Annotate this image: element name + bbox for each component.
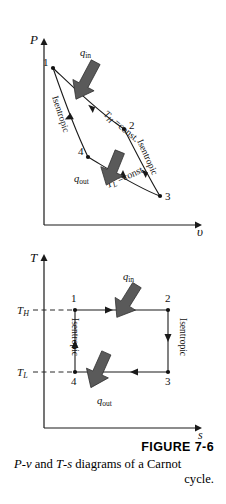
ts-q-in-subscript: in — [128, 275, 134, 284]
ts-TL-tick-label: TL — [17, 366, 28, 380]
ts-state-dots — [73, 308, 170, 374]
ts-y-axis-label: T — [30, 250, 38, 265]
ts-cycle-path — [75, 310, 168, 372]
pv-point-3-label: 3 — [165, 190, 171, 202]
pv-y-axis-label: P — [29, 32, 38, 47]
ts-point-2-label: 2 — [165, 292, 171, 304]
ts-point-1-dot — [73, 308, 77, 312]
ts-direction-arrows — [72, 307, 172, 376]
ts-arrow-3-4 — [130, 369, 138, 376]
ts-axes — [44, 260, 196, 428]
pv-q-in-subscript: in — [85, 51, 91, 60]
ts-q-out-label: qout — [97, 395, 113, 408]
pv-diagram: P υ 1 2 3 4 TH = — [0, 0, 226, 245]
pv-axes — [44, 44, 196, 225]
ts-q-out-subscript: out — [102, 399, 113, 408]
pv-isentropic-left-label: Isentropic — [50, 95, 71, 134]
pv-point-3-dot — [158, 194, 162, 198]
pv-q-out-label: qout — [74, 173, 90, 186]
caption-P-symbol: P — [14, 457, 22, 471]
pv-TH-tail: =const. — [110, 115, 141, 144]
ts-point-3-dot — [166, 370, 170, 374]
figure-caption-block: FIGURE 7-6 P-v and T-s diagrams of a Car… — [0, 440, 226, 486]
pv-isothermal-high-label: TH =const. — [100, 108, 141, 146]
figure-caption: P-v and T-s diagrams of a Carnot cycle. — [0, 457, 226, 486]
ts-TH-tick-label: TH — [17, 304, 30, 318]
caption-tail-text: diagrams of a Carnot — [72, 457, 181, 471]
ts-TL-subscript: L — [22, 371, 28, 380]
caption-second-line: cycle. — [14, 472, 214, 487]
ts-tick-guides — [33, 310, 75, 372]
ts-point-4-dot — [73, 370, 77, 374]
ts-arrow-1-2 — [105, 307, 113, 314]
pv-x-axis-label: υ — [197, 224, 203, 239]
pv-point-4-dot — [86, 155, 90, 159]
pv-point-1-label: 1 — [43, 56, 49, 68]
ts-isentropic-left-label: Isentropic — [70, 318, 80, 356]
ts-point-1-label: 1 — [71, 292, 77, 304]
ts-q-in-label: qin — [123, 271, 134, 284]
pv-q-in-label: qin — [80, 47, 91, 60]
ts-point-3-label: 3 — [165, 375, 171, 387]
ts-isentropic-right-label: Isentropic — [178, 318, 188, 356]
pv-point-1-dot — [51, 66, 55, 70]
pv-point-4-label: 4 — [78, 145, 84, 157]
pv-q-out-subscript: out — [79, 177, 90, 186]
ts-q-in-arrow — [107, 279, 147, 324]
ts-point-4-label: 4 — [71, 375, 77, 387]
caption-and-word: and — [32, 457, 56, 471]
figure-container: P υ 1 2 3 4 TH = — [0, 0, 226, 504]
ts-arrow-2-3 — [165, 334, 172, 342]
figure-number: FIGURE 7-6 — [0, 440, 226, 454]
pv-q-in-arrow — [65, 57, 106, 105]
ts-q-out-arrow — [80, 348, 117, 392]
ts-TH-subscript: H — [22, 309, 30, 318]
ts-point-2-dot — [166, 308, 170, 312]
ts-diagram: T s TH TL — [0, 248, 226, 443]
caption-T-symbol: T — [56, 457, 63, 471]
